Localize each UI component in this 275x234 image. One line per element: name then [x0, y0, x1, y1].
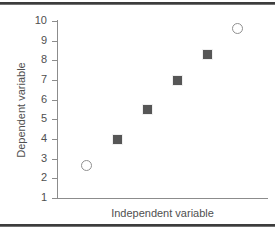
y-tick-label: 3: [17, 153, 47, 164]
data-point-circle: [81, 160, 92, 171]
data-point-square: [112, 134, 123, 145]
y-tick-mark: [52, 178, 57, 179]
data-point-square: [202, 49, 213, 60]
y-tick-mark: [52, 139, 57, 140]
y-tick-label: 1: [17, 192, 47, 203]
y-tick-label: 5: [17, 113, 47, 124]
y-tick-label: 7: [17, 74, 47, 85]
data-point-circle: [232, 23, 243, 34]
y-tick-mark: [52, 100, 57, 101]
y-tick-mark: [52, 198, 57, 199]
plot-area: Dependent variable Independent variable …: [0, 0, 275, 234]
data-point-square: [142, 104, 153, 115]
y-tick-label: 6: [17, 94, 47, 105]
y-tick-label: 4: [17, 133, 47, 144]
y-tick-mark: [52, 80, 57, 81]
y-tick-mark: [52, 60, 57, 61]
scatter-plot-figure: Dependent variable Independent variable …: [0, 0, 275, 234]
y-tick-label: 8: [17, 54, 47, 65]
x-axis-line: [57, 198, 268, 199]
y-tick-mark: [52, 119, 57, 120]
x-axis-title: Independent variable: [57, 207, 268, 219]
y-tick-label: 10: [17, 15, 47, 26]
y-tick-label: 2: [17, 172, 47, 183]
data-point-square: [172, 75, 183, 86]
y-tick-label: 9: [17, 35, 47, 46]
y-tick-mark: [52, 21, 57, 22]
y-axis-line: [57, 20, 58, 199]
y-tick-mark: [52, 41, 57, 42]
y-tick-mark: [52, 159, 57, 160]
